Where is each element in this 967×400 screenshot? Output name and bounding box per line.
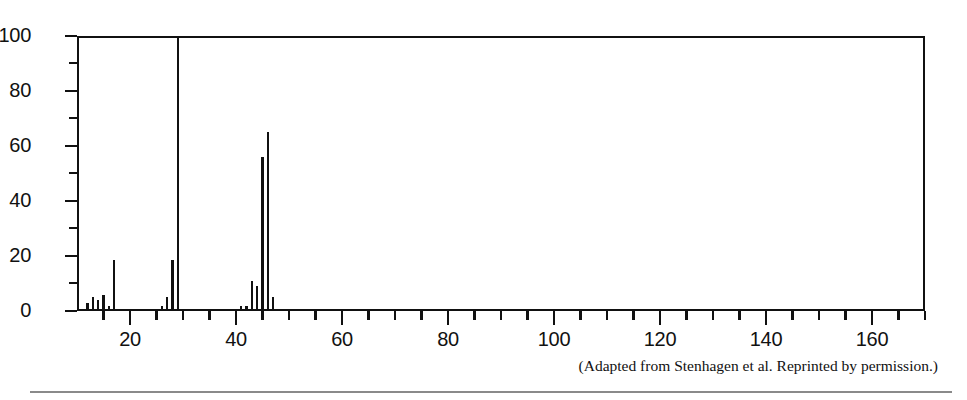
x-tick-minor-75 [420,311,422,320]
x-tick-label-160: 160 [842,329,902,349]
x-tick-minor-110 [606,311,608,320]
x-tick-minor-125 [685,311,687,320]
x-tick-minor-130 [712,311,714,320]
y-tick-label-40: 40 [9,190,31,210]
x-tick-minor-95 [526,311,528,320]
x-tick-minor-25 [155,311,157,320]
y-tick-label-100: 100 [0,25,31,45]
x-tick-label-40: 40 [206,329,266,349]
x-tick-minor-55 [314,311,316,320]
x-tick-major-60 [341,311,343,325]
spectrum-peak-14 [97,300,99,311]
x-tick-minor-170 [924,311,926,320]
x-tick-minor-145 [791,311,793,320]
spectrum-peak-29 [177,36,179,311]
y-tick-label-20: 20 [9,245,31,265]
spectrum-bars [77,36,925,311]
y-tick-minor-50 [69,172,77,174]
x-axis: 20406080100120140160 [0,311,967,400]
x-tick-minor-15 [102,311,104,320]
figure-caption: (Adapted from Stenhagen et al. Reprinted… [0,357,938,375]
x-tick-minor-115 [632,311,634,320]
mass-spectrum-figure: 100 80 60 40 20 0 20406080100120140160 (… [0,0,967,400]
x-tick-label-140: 140 [736,329,796,349]
y-tick-minor-10 [69,282,77,284]
x-tick-minor-50 [288,311,290,320]
spectrum-peak-45 [261,157,263,311]
y-tick-minor-30 [69,227,77,229]
y-tick-major-60 [65,145,77,147]
x-tick-major-40 [235,311,237,325]
spectrum-peak-28 [171,260,173,311]
x-tick-minor-165 [897,311,899,320]
x-tick-minor-85 [473,311,475,320]
spectrum-peak-12 [86,303,88,311]
x-tick-minor-35 [208,311,210,320]
x-tick-major-20 [129,311,131,325]
y-tick-minor-70 [69,117,77,119]
y-tick-major-100 [65,35,77,37]
spectrum-peak-15 [102,295,104,312]
y-tick-minor-90 [69,62,77,64]
y-tick-major-20 [65,255,77,257]
x-tick-minor-90 [500,311,502,320]
x-tick-minor-155 [844,311,846,320]
x-tick-label-60: 60 [312,329,372,349]
x-tick-minor-70 [394,311,396,320]
spectrum-peak-17 [113,260,115,311]
x-tick-major-100 [553,311,555,325]
spectrum-peak-13 [92,297,94,311]
x-tick-label-120: 120 [630,329,690,349]
x-tick-major-160 [871,311,873,325]
spectrum-peak-43 [251,281,253,311]
x-tick-major-140 [765,311,767,325]
x-tick-major-80 [447,311,449,325]
spectrum-peak-27 [166,297,168,311]
y-tick-label-80: 80 [9,80,31,100]
x-tick-minor-105 [579,311,581,320]
y-tick-major-40 [65,200,77,202]
spectrum-peak-47 [272,297,274,311]
x-tick-label-20: 20 [100,329,160,349]
bottom-divider [30,391,952,393]
x-tick-label-100: 100 [524,329,584,349]
y-tick-label-60: 60 [9,135,31,155]
x-tick-minor-45 [261,311,263,320]
x-tick-minor-150 [818,311,820,320]
x-tick-minor-65 [367,311,369,320]
spectrum-peak-44 [256,286,258,311]
x-tick-minor-30 [182,311,184,320]
spectrum-peak-46 [267,132,269,311]
y-tick-major-80 [65,90,77,92]
x-tick-label-80: 80 [418,329,478,349]
x-tick-minor-135 [738,311,740,320]
x-tick-major-120 [659,311,661,325]
